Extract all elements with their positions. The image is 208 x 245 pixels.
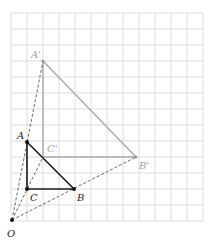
point-c <box>25 187 29 191</box>
label-o: O <box>7 228 15 239</box>
point-a-prime <box>42 60 45 63</box>
label-b: B <box>76 192 84 203</box>
label-b-prime: B' <box>138 160 149 171</box>
point-o <box>10 218 14 222</box>
label-c: C <box>30 192 38 203</box>
point-b-prime <box>135 156 138 159</box>
label-a: A <box>16 130 24 141</box>
point-a <box>25 140 29 144</box>
label-c-prime: C' <box>47 143 57 154</box>
label-a-prime: A' <box>30 49 41 60</box>
homothety-diagram: O A C B A' C' B' <box>0 0 208 245</box>
point-b <box>72 187 76 191</box>
